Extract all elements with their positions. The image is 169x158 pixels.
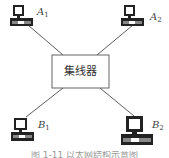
node-label-b1: B1 [37,119,50,132]
node-label-b2: B2 [151,119,164,132]
link-b2-hub [100,88,134,116]
hub-box: 集线器 [52,55,109,88]
computer-a1-icon [10,5,33,26]
link-a2-hub [97,25,133,55]
computer-b2-icon [121,116,153,145]
hub-label: 集线器 [64,64,97,78]
link-b1-hub [26,88,63,117]
node-label-a1: A1 [36,6,49,19]
node-label-a2: A2 [149,11,162,24]
computer-b1-icon [11,118,34,141]
link-a1-hub [28,25,63,55]
computer-a2-icon [121,5,144,26]
hub-network-diagram: 集线器 A1 A2 B1 B2 [0,0,169,158]
figure-caption: 图 1-11 以太网结构示意图 [0,151,169,158]
